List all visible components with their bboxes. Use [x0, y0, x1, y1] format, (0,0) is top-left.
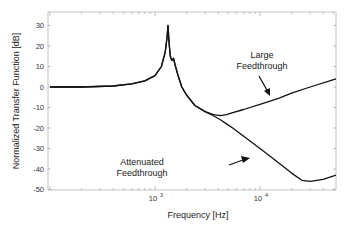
- annotation-large-line1: Large: [250, 50, 273, 60]
- y-tick-label: 20: [36, 42, 44, 51]
- x-tick-exponent: 4: [265, 192, 268, 198]
- annotation-attenuated-line2: Feedthrough: [116, 168, 167, 178]
- y-tick-label: -40: [33, 165, 44, 174]
- y-tick-label: -10: [33, 103, 44, 112]
- annotation-attenuated-line1: Attenuated: [120, 157, 164, 167]
- x-tick-label: 10: [149, 194, 157, 203]
- y-tick-label: 0: [40, 83, 44, 92]
- y-tick-label: 10: [36, 62, 44, 71]
- y-tick-label: -30: [33, 144, 44, 153]
- y-tick-label: 30: [36, 21, 44, 30]
- x-tick-exponent: 3: [160, 192, 163, 198]
- y-axis-label: Normalized Transfer Function [dB]: [11, 33, 21, 170]
- x-tick-label: 10: [254, 194, 262, 203]
- frequency-response-chart: 3020100-10-20-30-40-50 103104 Frequency …: [0, 0, 345, 228]
- y-tick-label: -50: [33, 185, 44, 194]
- y-tick-label: -20: [33, 124, 44, 133]
- x-axis-label: Frequency [Hz]: [167, 210, 228, 220]
- annotation-large-line2: Feedthrough: [236, 61, 287, 71]
